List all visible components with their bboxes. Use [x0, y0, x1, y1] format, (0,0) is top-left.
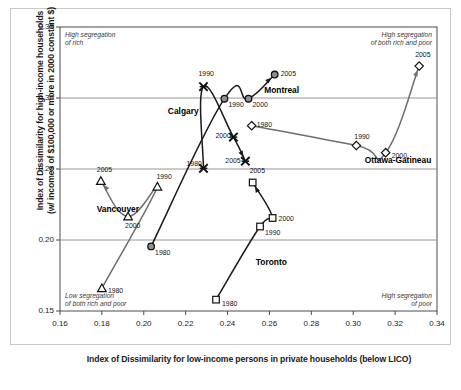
y-tick-label: 0.30 — [26, 93, 54, 102]
y-tick-label: 0.20 — [26, 235, 54, 244]
point-label-toronto-2005: 2005 — [250, 167, 265, 174]
point-label-vancouver-2000: 2000 — [125, 222, 140, 229]
point-label-vancouver-1980: 1980 — [108, 287, 123, 294]
y-axis-title-line1: Index of Dissimilarity for high-income h… — [35, 11, 45, 210]
marker-square — [249, 179, 256, 186]
series-toronto — [213, 179, 276, 303]
marker-triangle — [98, 284, 107, 292]
marker-square — [269, 215, 276, 222]
marker-circle — [245, 95, 252, 102]
x-tick-label: 0.16 — [45, 319, 75, 328]
annotation-bottom-right: High segregationof poor — [322, 292, 432, 308]
point-label-calgary-1980: 1980 — [186, 160, 201, 167]
point-label-montreal-1990: 1990 — [228, 101, 243, 108]
annotation-line1: High segregation — [381, 292, 432, 299]
annotation-line2: of poor — [411, 300, 432, 307]
annotation-line1: High segregation — [381, 31, 432, 38]
point-label-toronto-2000: 2000 — [279, 215, 294, 222]
point-label-montreal-2000: 2000 — [253, 101, 268, 108]
line-arrowhead — [238, 151, 243, 157]
marker-square — [257, 223, 264, 230]
point-label-toronto-1990: 1990 — [265, 229, 280, 236]
x-tick-label: 0.30 — [338, 319, 368, 328]
point-label-calgary-1990: 1990 — [198, 70, 213, 77]
point-label-montreal-2005: 2005 — [281, 70, 296, 77]
series-label-calgary: Calgary — [168, 106, 199, 116]
y-axis-title-line2: (w/ incomes of $100,000 or more in 2000 … — [45, 7, 55, 214]
marker-triangle — [97, 177, 106, 185]
annotation-line1: High segregation — [65, 31, 116, 38]
y-tick-label: 0.25 — [26, 164, 54, 173]
series-line — [101, 181, 158, 288]
marker-diamond — [247, 121, 255, 129]
marker-triangle — [153, 182, 162, 190]
y-tick-label: 0.15 — [26, 306, 54, 315]
series-vancouver — [97, 177, 162, 292]
annotation-top-left: High segregationof rich — [65, 31, 116, 47]
scatter-plot-canvas — [0, 0, 461, 390]
annotation-line2: of both rich and poor — [371, 39, 432, 46]
point-label-calgary-2000: 2000 — [215, 132, 230, 139]
point-label-calgary-2005: 2005 — [225, 157, 240, 164]
annotation-bottom-left: Low segregationof both rich and poor — [65, 292, 126, 308]
annotation-line2: of rich — [65, 39, 83, 46]
series-line — [216, 182, 273, 299]
point-label-vancouver-2005: 2005 — [97, 166, 112, 173]
series-label-vancouver: Vancouver — [97, 204, 139, 214]
line-arrowhead — [413, 70, 417, 76]
line-arrowhead — [265, 78, 271, 84]
x-tick-label: 0.20 — [129, 319, 159, 328]
x-tick-label: 0.28 — [296, 319, 326, 328]
point-label-toronto-1980: 1980 — [222, 300, 237, 307]
y-tick-label: 0.35 — [26, 22, 54, 31]
annotation-line1: Low segregation — [65, 292, 114, 299]
marker-circle — [221, 95, 228, 102]
series-label-ottawa-gatineau: Ottawa-Gatineau — [365, 155, 432, 165]
point-label-ottawa-gatineau-2005: 2005 — [415, 51, 430, 58]
marker-circle — [271, 71, 278, 78]
x-axis-title: Index of Dissimilarity for low-income pe… — [60, 354, 438, 365]
annotation-top-right: High segregationof both rich and poor — [322, 31, 432, 47]
point-label-vancouver-1990: 1990 — [156, 173, 171, 180]
series-line — [252, 66, 420, 160]
y-axis-title-container: Index of Dissimilarity for high-income h… — [35, 0, 56, 251]
point-label-montreal-1980: 1980 — [155, 249, 170, 256]
x-tick-label: 0.18 — [87, 319, 117, 328]
x-tick-label: 0.24 — [213, 319, 243, 328]
x-tick-label: 0.26 — [254, 319, 284, 328]
marker-square — [213, 296, 220, 303]
y-axis-title: Index of Dissimilarity for high-income h… — [35, 0, 56, 251]
marker-diamond — [352, 141, 360, 149]
annotation-line2: of both rich and poor — [65, 300, 126, 307]
x-tick-label: 0.22 — [171, 319, 201, 328]
point-label-ottawa-gatineau-1980: 1980 — [257, 121, 272, 128]
chart-figure: Index of Dissimilarity for high-income h… — [0, 0, 461, 390]
series-label-toronto: Toronto — [256, 257, 287, 267]
x-tick-label: 0.34 — [422, 319, 452, 328]
marker-diamond — [415, 62, 423, 70]
series-label-montreal: Montreal — [264, 85, 299, 95]
point-label-ottawa-gatineau-1990: 1990 — [354, 133, 369, 140]
x-tick-label: 0.32 — [380, 319, 410, 328]
marker-circle — [148, 243, 155, 250]
